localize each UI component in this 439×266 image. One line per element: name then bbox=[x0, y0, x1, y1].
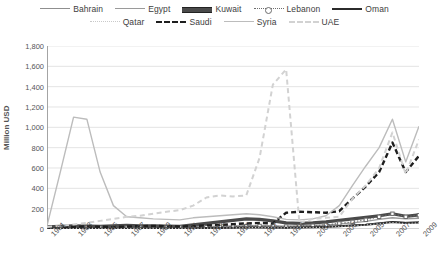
y-axis-ticks: 1,8001,6001,4001,2001,0008006004002000 bbox=[14, 46, 44, 229]
legend-item-kuwait[interactable]: Kuwait bbox=[182, 4, 241, 14]
x-axis-ticks: 1981198319851987198919911993199519971999… bbox=[47, 230, 419, 266]
legend-swatch-oman-icon bbox=[332, 5, 362, 14]
legend-swatch-saudi-icon bbox=[156, 18, 186, 27]
legend-label-uae: UAE bbox=[322, 17, 340, 27]
plot-wrap: Million USD 1,8001,6001,4001,2001,000800… bbox=[0, 46, 429, 266]
legend-swatch-egypt-icon bbox=[115, 5, 145, 14]
y-tick-label: 1,600 bbox=[25, 62, 44, 71]
series-marker-lebanon bbox=[377, 215, 380, 218]
legend-row-2: Qatar Saudi Syria UAE bbox=[84, 17, 346, 27]
legend-item-saudi[interactable]: Saudi bbox=[156, 17, 211, 27]
legend-swatch-bahrain-icon bbox=[40, 5, 70, 14]
legend-item-egypt[interactable]: Egypt bbox=[115, 4, 170, 14]
y-tick-label: 200 bbox=[31, 204, 44, 213]
legend-item-uae[interactable]: UAE bbox=[289, 17, 340, 27]
y-tick-label: 400 bbox=[31, 184, 44, 193]
legend-label-saudi: Saudi bbox=[189, 17, 211, 27]
legend-item-qatar[interactable]: Qatar bbox=[90, 17, 145, 27]
legend-label-kuwait: Kuwait bbox=[215, 4, 241, 14]
y-tick-label: 1,200 bbox=[25, 103, 44, 112]
y-tick-label: 0 bbox=[40, 225, 44, 234]
y-tick-label: 1,800 bbox=[25, 42, 44, 51]
legend-label-bahrain: Bahrain bbox=[73, 4, 103, 14]
plot-area bbox=[47, 46, 419, 229]
series-marker-lebanon bbox=[417, 214, 419, 217]
legend-item-bahrain[interactable]: Bahrain bbox=[40, 4, 103, 14]
legend-swatch-syria-icon bbox=[224, 18, 254, 27]
legend-item-lebanon[interactable]: Lebanon bbox=[254, 4, 321, 14]
legend-row-1: Bahrain Egypt Kuwait Lebanon Oman bbox=[34, 4, 395, 14]
y-axis-title: Million USD bbox=[2, 106, 11, 150]
legend-item-oman[interactable]: Oman bbox=[332, 4, 389, 14]
legend-label-egypt: Egypt bbox=[148, 4, 170, 14]
legend-swatch-qatar-icon bbox=[90, 18, 120, 27]
legend-item-syria[interactable]: Syria bbox=[224, 17, 277, 27]
y-tick-label: 1,400 bbox=[25, 82, 44, 91]
legend-swatch-uae-icon bbox=[289, 18, 319, 27]
chart-legend: Bahrain Egypt Kuwait Lebanon Oman bbox=[0, 4, 429, 27]
legend-label-syria: Syria bbox=[257, 17, 277, 27]
legend-label-qatar: Qatar bbox=[123, 17, 145, 27]
legend-swatch-kuwait-icon bbox=[182, 5, 212, 14]
series-line-uae bbox=[47, 69, 419, 227]
series-marker-lebanon bbox=[404, 215, 407, 218]
legend-label-oman: Oman bbox=[365, 4, 389, 14]
series-marker-lebanon bbox=[338, 222, 341, 225]
x-tick-label: 2009 bbox=[421, 220, 439, 238]
series-canvas bbox=[47, 46, 419, 229]
y-tick-label: 600 bbox=[31, 164, 44, 173]
series-marker-lebanon bbox=[391, 212, 394, 215]
legend-label-lebanon: Lebanon bbox=[287, 4, 321, 14]
y-tick-label: 1,000 bbox=[25, 123, 44, 132]
y-tick-label: 800 bbox=[31, 143, 44, 152]
series-line-syria bbox=[47, 117, 419, 226]
series-marker-lebanon bbox=[364, 218, 367, 221]
legend-swatch-lebanon-icon bbox=[254, 5, 284, 14]
